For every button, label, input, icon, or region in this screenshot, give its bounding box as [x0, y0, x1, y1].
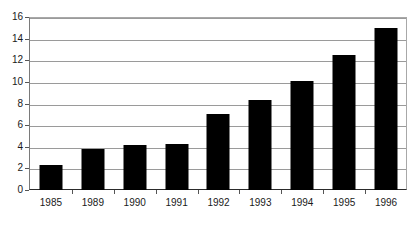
bar-slot-1992	[198, 17, 240, 190]
y-tick-label-8: 8	[0, 99, 23, 109]
y-tick-label-14: 14	[0, 34, 23, 44]
x-tick-mark-1	[114, 190, 115, 194]
bar-slot-1994	[281, 17, 323, 190]
y-tick-mark-6	[25, 125, 29, 126]
bar-1989[interactable]	[81, 149, 104, 190]
bar-1996[interactable]	[375, 28, 398, 190]
y-tick-mark-0	[25, 190, 29, 191]
y-tick-mark-14	[25, 39, 29, 40]
y-tick-label-4: 4	[0, 142, 23, 152]
x-tick-mark-5	[281, 190, 282, 194]
bar-1985[interactable]	[39, 165, 62, 190]
y-tick-label-10: 10	[0, 77, 23, 87]
bar-slot-1989	[72, 17, 114, 190]
y-tick-mark-8	[25, 104, 29, 105]
bar-1992[interactable]	[207, 114, 230, 190]
x-tick-mark-4	[239, 190, 240, 194]
y-tick-label-16: 16	[0, 12, 23, 22]
y-tick-label-12: 12	[0, 55, 23, 65]
bar-slot-1993	[239, 17, 281, 190]
bar-slot-1990	[114, 17, 156, 190]
x-tick-mark-2	[156, 190, 157, 194]
y-tick-mark-4	[25, 147, 29, 148]
y-tick-label-2: 2	[0, 163, 23, 173]
x-tick-mark-6	[323, 190, 324, 194]
x-tick-label-1996: 1996	[356, 197, 416, 208]
bar-1993[interactable]	[249, 100, 272, 190]
y-tick-mark-12	[25, 60, 29, 61]
bars-group	[30, 17, 407, 190]
bar-1994[interactable]	[291, 81, 314, 190]
bar-1991[interactable]	[165, 144, 188, 190]
bar-1995[interactable]	[333, 55, 356, 190]
bar-chart: 0246810121416 19851989199019911992199319…	[0, 0, 419, 226]
bar-1990[interactable]	[123, 145, 146, 190]
y-tick-mark-2	[25, 168, 29, 169]
bar-slot-1985	[30, 17, 72, 190]
y-tick-label-0: 0	[0, 185, 23, 195]
y-tick-mark-16	[25, 17, 29, 18]
y-tick-mark-10	[25, 82, 29, 83]
x-tick-mark-7	[365, 190, 366, 194]
bar-slot-1995	[323, 17, 365, 190]
bar-slot-1991	[156, 17, 198, 190]
bar-slot-1996	[365, 17, 407, 190]
x-tick-mark-3	[198, 190, 199, 194]
y-tick-label-6: 6	[0, 120, 23, 130]
x-tick-mark-0	[72, 190, 73, 194]
